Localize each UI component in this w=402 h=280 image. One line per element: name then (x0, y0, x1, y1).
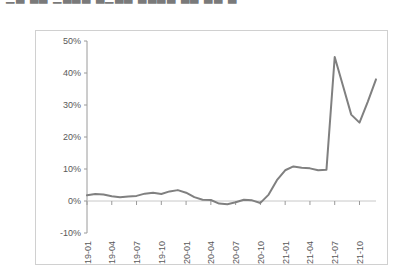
x-tick-label: 2019-07 (132, 241, 142, 264)
x-tick-label: 2021-04 (305, 241, 315, 264)
x-tick-label: 2020-04 (206, 241, 216, 264)
y-tick-label: 20% (63, 132, 81, 142)
x-tick-label: 2019-01 (83, 241, 93, 264)
y-tick-label: 0% (68, 196, 81, 206)
cut-off-header-glyphs: ▁▃ ▃▃ ▁▃▃▃ ▃▁▃▃ ▃▃▃▃ ▃▃ ▃▃ ▃ (6, 0, 237, 4)
x-tick-label: 2020-10 (256, 241, 266, 264)
cut-off-header-text: ▁▃ ▃▃ ▁▃▃▃ ▃▁▃▃ ▃▃▃▃ ▃▃ ▃▃ ▃ (0, 0, 402, 13)
y-tick-label: 30% (63, 100, 81, 110)
x-tick-label: 2019-04 (107, 241, 117, 264)
data-line-value (87, 57, 376, 204)
line-chart: -10%0%10%20%30%40%50%2019-012019-042019-… (36, 31, 387, 264)
x-tick-label: 2020-07 (231, 241, 241, 264)
y-tick-label: 50% (63, 36, 81, 46)
x-tick-label: 2019-10 (157, 241, 167, 264)
x-tick-label: 2021-10 (355, 241, 365, 264)
x-tick-label: 2021-01 (281, 241, 291, 264)
chart-frame: -10%0%10%20%30%40%50%2019-012019-042019-… (35, 30, 388, 265)
y-tick-label: -10% (60, 228, 81, 238)
y-tick-label: 40% (63, 68, 81, 78)
y-tick-label: 10% (63, 164, 81, 174)
x-tick-label: 2021-07 (330, 241, 340, 264)
x-tick-label: 2020-01 (182, 241, 192, 264)
